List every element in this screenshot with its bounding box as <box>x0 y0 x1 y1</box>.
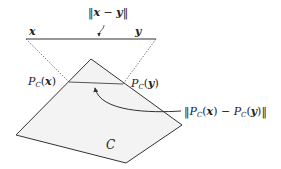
label-set-c: C <box>106 139 115 151</box>
label-point-y: y <box>135 26 141 37</box>
label-point-x: x <box>29 26 36 37</box>
arrow-distance-xy <box>99 25 104 36</box>
label-projection-y: PC(y) <box>131 78 159 91</box>
label-projection-x: PC(x) <box>28 76 56 89</box>
label-distance-xy: ‖x − y‖ <box>88 7 128 18</box>
label-distance-projections: ‖PC(x) − PC(y)‖ <box>184 106 267 119</box>
